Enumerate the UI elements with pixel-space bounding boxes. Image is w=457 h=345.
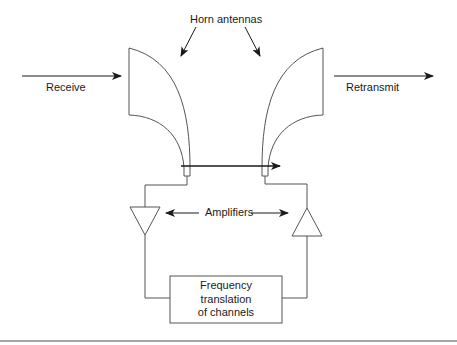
box-line-2: translation xyxy=(170,293,282,307)
left-amplifier-triangle xyxy=(130,207,160,235)
right-horn-antenna xyxy=(262,48,323,176)
horn-pointer-left-arrow xyxy=(181,27,196,56)
frequency-translation-text: Frequency translation of channels xyxy=(170,279,282,320)
amplifiers-label: Amplifiers xyxy=(205,207,253,218)
right-amplifier-triangle xyxy=(292,208,322,236)
retransmit-label: Retransmit xyxy=(346,82,399,93)
box-line-3: of channels xyxy=(170,306,282,320)
left-horn-antenna xyxy=(129,48,190,176)
horn-antennas-label: Horn antennas xyxy=(190,14,262,25)
horn-pointer-right-arrow xyxy=(245,27,260,56)
receive-label: Receive xyxy=(46,82,86,93)
box-line-1: Frequency xyxy=(170,279,282,293)
